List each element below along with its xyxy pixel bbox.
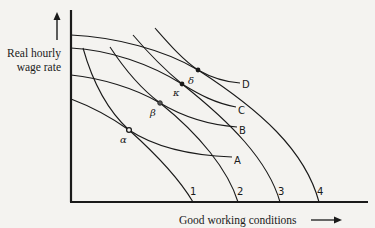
x-axis-arrow-icon (311, 217, 342, 224)
y-axis-label-line1: Real hourly (7, 47, 61, 60)
x-axis-label: Good working conditions (179, 214, 297, 227)
curve-label-1: 1 (190, 186, 196, 197)
frontier-curve-4 (155, 28, 319, 202)
point-label-beta: β (149, 107, 156, 118)
point-label-alpha: α (120, 134, 127, 145)
point-label-kappa: κ (172, 87, 180, 98)
curve-label-4: 4 (317, 186, 323, 197)
curve-label-D: D (242, 79, 250, 90)
frontier-curve-3 (133, 35, 280, 202)
tangency-point-alpha (127, 128, 132, 133)
curve-label-C: C (238, 105, 245, 116)
y-axis-arrow-icon (54, 12, 61, 40)
curve-label-2: 2 (237, 186, 243, 197)
y-axis-label-line2: wage rate (17, 61, 61, 74)
curve-label-A: A (234, 155, 241, 166)
tangency-point-kappa (180, 82, 185, 87)
diagram: Real hourly wage rate Good working condi… (0, 0, 375, 228)
frontier-curve-1 (83, 48, 193, 202)
tangency-point-delta (196, 68, 201, 73)
curve-label-B: B (239, 125, 246, 136)
curve-label-3: 3 (278, 186, 284, 197)
point-label-delta: δ (188, 75, 194, 86)
tangency-point-beta (158, 101, 163, 106)
